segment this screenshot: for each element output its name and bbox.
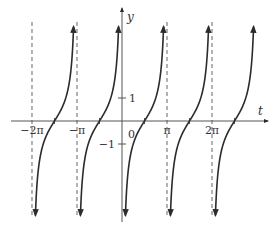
axes	[11, 8, 268, 222]
x-tick-label: −π	[69, 124, 85, 137]
axis-labels: 1−1−2π−π0π2πty	[20, 10, 263, 151]
x-tick-label: 2π	[205, 124, 219, 137]
cotangent-plot: 1−1−2π−π0π2πty	[0, 0, 275, 226]
y-axis-label: y	[126, 10, 134, 24]
t-axis-label: t	[258, 104, 263, 118]
x-tick-label: −2π	[20, 124, 43, 137]
x-tick-label: 0	[128, 128, 135, 141]
x-tick-label: π	[163, 124, 170, 137]
y-tick-label: 1	[129, 92, 136, 105]
y-tick-label: −1	[99, 138, 115, 151]
